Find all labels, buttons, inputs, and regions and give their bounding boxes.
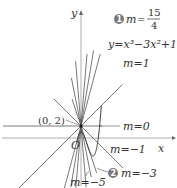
badge-1-text: 1 bbox=[117, 15, 123, 24]
m0-label: m=0 bbox=[123, 120, 150, 133]
curve-label: y=x³−3x²+1 bbox=[107, 38, 177, 51]
point-0-2 bbox=[79, 124, 82, 127]
m-15-4-den: 4 bbox=[151, 20, 157, 31]
mneg3-label: m=−3 bbox=[121, 167, 157, 180]
x-axis-arrow bbox=[172, 136, 176, 140]
m-15-4-m: m bbox=[126, 13, 136, 26]
badge-2-text: 2 bbox=[111, 169, 117, 178]
diagram: x y O (0, 2) 1 m = 15 4 y=x³−3x²+1 m=1 m… bbox=[0, 0, 177, 188]
y-axis-label: y bbox=[70, 7, 78, 20]
m-15-4-num: 15 bbox=[148, 7, 161, 18]
mneg1-label: m=−1 bbox=[110, 143, 146, 156]
point-label: (0, 2) bbox=[38, 115, 65, 126]
line-m-neg1 bbox=[54, 99, 123, 168]
y-axis-arrow bbox=[79, 10, 83, 15]
line-m-1 bbox=[9, 85, 122, 188]
mneg5-label: m=−5 bbox=[70, 176, 106, 188]
m1-label: m=1 bbox=[123, 57, 150, 70]
mneg3-leader bbox=[97, 168, 108, 172]
x-axis-label: x bbox=[158, 142, 165, 155]
m-15-4-eq: = bbox=[137, 14, 145, 25]
diagram-svg: x y O (0, 2) 1 m = 15 4 y=x³−3x²+1 m=1 m… bbox=[0, 0, 177, 188]
